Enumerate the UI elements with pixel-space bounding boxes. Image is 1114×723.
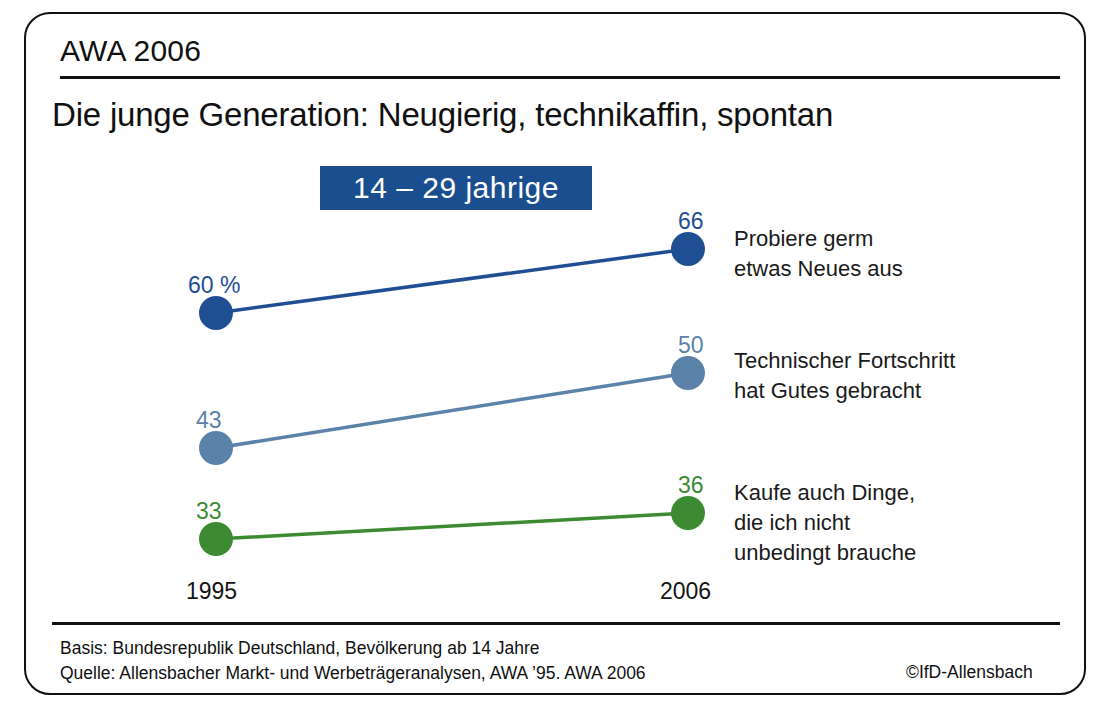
data-label-series0-2006: 66 [678,208,704,235]
data-label-series2-1995: 33 [196,498,222,525]
data-label-series0-1995: 60 % [188,272,240,299]
series-label-0-line1: Probiere germ [734,224,903,254]
series-label-1-line2: hat Gutes gebracht [734,376,955,406]
footer-quelle-line: Quelle: Allensbacher Markt- und Werbeträ… [60,661,646,686]
axis-tick-left: 1995 [186,578,237,605]
axis-tick-right: 2006 [660,578,711,605]
series-label-2-line1: Kaufe auch Dinge, [734,478,916,508]
footer-divider [52,622,1060,625]
data-label-series1-2006: 50 [678,332,704,359]
data-label-series2-2006: 36 [678,472,704,499]
footer-source: Basis: Bundesrepublik Deutschland, Bevöl… [60,636,646,686]
series-line-2 [199,496,705,556]
header-divider [60,76,1060,79]
series-label-2: Kaufe auch Dinge, die ich nicht unbeding… [734,478,916,568]
series-label-2-line2: die ich nicht [734,508,916,538]
series-line-1 [199,356,705,465]
series-line-0 [199,232,705,330]
header-eyebrow: AWA 2006 [60,34,201,68]
series-label-0: Probiere germ etwas Neues aus [734,224,903,284]
page-title: Die junge Generation: Neugierig, technik… [52,96,833,134]
series-label-1-line1: Technischer Fortschritt [734,346,955,376]
series-label-1: Technischer Fortschritt hat Gutes gebrac… [734,346,955,406]
series-label-0-line2: etwas Neues aus [734,254,903,284]
footer-copyright: ©IfD-Allensbach [906,662,1033,683]
series-label-2-line3: unbedingt brauche [734,538,916,568]
age-band-badge: 14 – 29 jahrige [320,166,592,210]
data-label-series1-1995: 43 [196,407,222,434]
chart-card-frame: AWA 2006 Die junge Generation: Neugierig… [24,12,1086,695]
footer-basis-line: Basis: Bundesrepublik Deutschland, Bevöl… [60,636,646,661]
